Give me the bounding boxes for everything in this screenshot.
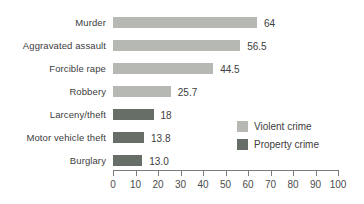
x-axis-tick-label: 60	[242, 179, 253, 190]
x-axis-tick	[203, 171, 204, 176]
chart-row: Murder64	[0, 11, 364, 34]
bar-larceny-theft	[113, 109, 154, 120]
bar-forcible-rape	[113, 63, 213, 74]
x-axis-tick-label: 100	[330, 179, 347, 190]
legend-entry-property: Property crime	[237, 139, 319, 150]
category-label: Larceny/theft	[0, 109, 113, 120]
bar-aggravated-assault	[113, 40, 240, 51]
x-axis-tick	[248, 171, 249, 176]
bar-track: 64	[113, 17, 364, 28]
x-axis-tick	[271, 171, 272, 176]
x-axis-tick	[226, 171, 227, 176]
x-axis-tick	[136, 171, 137, 176]
x-axis-tick-label: 90	[310, 179, 321, 190]
x-axis-tick	[158, 171, 159, 176]
chart-row: Forcible rape44.5	[0, 57, 364, 80]
bar-track: 18	[113, 109, 364, 120]
x-axis-tick-label: 30	[175, 179, 186, 190]
cropped-print-artifact	[358, 20, 364, 28]
x-axis-tick-label: 80	[287, 179, 298, 190]
bar-track: 44.5	[113, 63, 364, 74]
category-label: Robbery	[0, 86, 113, 97]
bar-robbery	[113, 86, 171, 97]
x-axis-tick-label: 50	[220, 179, 231, 190]
category-label: Forcible rape	[0, 63, 113, 74]
x-axis-tick-label: 20	[152, 179, 163, 190]
legend-swatch-property	[237, 139, 248, 150]
x-axis-tick-label: 0	[110, 179, 116, 190]
value-label: 13.0	[149, 155, 168, 166]
cropped-print-artifact	[358, 9, 364, 18]
x-axis-tick	[316, 171, 317, 176]
bar-motor-vehicle-theft	[113, 132, 144, 143]
category-label: Motor vehicle theft	[0, 132, 113, 143]
value-label: 64	[264, 17, 275, 28]
chart-legend: Violent crimeProperty crime	[237, 121, 319, 157]
value-label: 44.5	[220, 63, 239, 74]
value-label: 56.5	[247, 40, 266, 51]
value-label: 25.7	[178, 86, 197, 97]
category-label: Aggravated assault	[0, 40, 113, 51]
cropped-print-artifact	[359, 44, 363, 52]
x-axis-tick	[293, 171, 294, 176]
value-label: 18	[161, 109, 172, 120]
bar-track: 25.7	[113, 86, 364, 97]
legend-entry-violent: Violent crime	[237, 121, 319, 132]
category-label: Murder	[0, 17, 113, 28]
chart-row: Robbery25.7	[0, 80, 364, 103]
bar-track: 56.5	[113, 40, 364, 51]
legend-label: Violent crime	[254, 121, 312, 132]
legend-swatch-violent	[237, 121, 248, 132]
bar-burglary	[113, 155, 142, 166]
value-label: 13.8	[151, 132, 170, 143]
x-axis-tick	[338, 171, 339, 176]
x-axis-tick	[113, 171, 114, 176]
x-axis-tick-label: 70	[265, 179, 276, 190]
x-axis: 0102030405060708090100	[113, 170, 339, 171]
cropped-print-artifact	[359, 55, 362, 62]
x-axis-tick-label: 40	[197, 179, 208, 190]
bar-murder	[113, 17, 257, 28]
chart-row: Aggravated assault56.5	[0, 34, 364, 57]
category-label: Burglary	[0, 155, 113, 166]
x-axis-tick-label: 10	[130, 179, 141, 190]
legend-label: Property crime	[254, 139, 319, 150]
clearance-rate-bar-chart: Murder64Aggravated assault56.5Forcible r…	[0, 0, 364, 204]
x-axis-tick	[181, 171, 182, 176]
